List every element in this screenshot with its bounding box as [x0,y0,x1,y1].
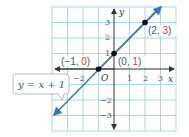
x-tick: 3 [158,74,163,83]
point-label-neg1-0: (−1, 0) [61,56,90,67]
point-0-1 [111,51,117,57]
y-tick: −3 [100,111,112,120]
point-neg1-0 [96,66,102,72]
y-tick: 1 [105,49,110,58]
equation-label: y = x + 1 [17,79,65,90]
y-tick: 3 [105,18,110,27]
origin-label: O [101,73,109,83]
y-tick: 2 [105,33,110,42]
x-tick: 2 [143,74,148,83]
y-axis-label: y [118,7,125,17]
point-label-0-1: (0, 1) [118,56,141,67]
point-label-2-3: (2, 3) [148,25,171,36]
coordinate-plane: x y O −2 1 2 3 3 2 1 −2 −3 (−1, 0) (0, 1… [0,0,189,137]
point-2-3 [142,20,148,26]
x-tick: 1 [127,74,132,83]
y-tick: −2 [100,96,112,105]
x-tick: −2 [73,74,85,83]
equation-callout: y = x + 1 [13,74,69,100]
x-axis-label: x [168,74,173,84]
